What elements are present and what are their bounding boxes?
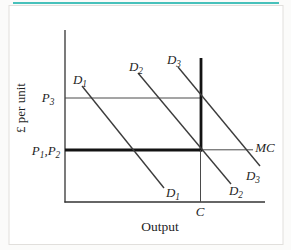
mc-label: MC	[254, 140, 275, 155]
capacity-label: C	[196, 204, 205, 219]
figure-frame	[9, 6, 283, 245]
diagram-svg: P3P1,P2D1D2D3D1D2D3MCC£ per unitOutput	[0, 0, 291, 250]
y-axis-title: £ per unit	[13, 83, 28, 133]
figure: P3P1,P2D1D2D3D1D2D3MCC£ per unitOutput	[0, 0, 291, 250]
x-axis-title: Output	[141, 219, 179, 234]
